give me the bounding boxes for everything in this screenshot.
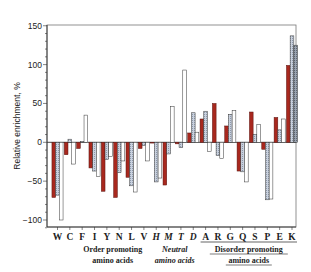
y-tick-label: −50 xyxy=(28,176,43,186)
bar-Y-series-3 xyxy=(109,142,113,156)
bar-N-series-3 xyxy=(121,142,125,161)
bar-L-series-2 xyxy=(130,142,134,186)
y-tick-label: 150 xyxy=(28,21,42,31)
bar-T-series-3 xyxy=(183,70,187,142)
bar-A-series-3 xyxy=(207,142,211,151)
group-annotations: Order promotingamino acidsNeutralamino a… xyxy=(83,245,288,265)
bar-V-series-2 xyxy=(142,142,146,145)
x-tick-label: C xyxy=(66,232,73,242)
bar-H-series-2 xyxy=(154,142,158,182)
bar-M-series-2 xyxy=(167,142,171,154)
x-tick-label: T xyxy=(178,232,185,242)
x-tick-label: N xyxy=(116,232,123,242)
bar-N-series-1 xyxy=(114,142,118,197)
bar-Q-series-2 xyxy=(241,142,245,172)
y-tick-label: 100 xyxy=(28,60,42,70)
bar-W-series-3 xyxy=(59,142,63,220)
group-label-line1: Neutral xyxy=(161,245,188,254)
group-label-line2: amino acids xyxy=(92,256,133,265)
x-tick-label: H xyxy=(152,232,161,242)
x-tick-label: I xyxy=(93,232,97,242)
bar-V-series-1 xyxy=(138,142,142,148)
x-tick-label: E xyxy=(276,232,282,242)
bar-R-series-1 xyxy=(212,103,216,142)
bar-Y-series-2 xyxy=(105,142,109,159)
bar-I-series-1 xyxy=(89,142,93,168)
x-tick-label: L xyxy=(128,232,134,242)
bar-K-series-1 xyxy=(286,65,290,142)
x-tick-label: K xyxy=(288,232,296,242)
bar-D-series-3 xyxy=(195,132,199,142)
group-label-line2: amino acids xyxy=(155,256,195,265)
bar-Y-series-1 xyxy=(101,142,105,191)
y-tick-label: 50 xyxy=(33,98,43,108)
x-tick-label: Y xyxy=(103,232,110,242)
bar-C-series-2 xyxy=(68,139,72,142)
bar-N-series-2 xyxy=(117,142,121,172)
bar-D-series-2 xyxy=(191,113,195,143)
bar-K-series-3 xyxy=(294,45,298,142)
bar-H-series-1 xyxy=(151,142,155,143)
bar-Q-series-3 xyxy=(244,142,248,182)
x-tick-label: Q xyxy=(239,232,246,242)
group-label-line1: Disorder promoting xyxy=(215,245,283,254)
bar-F-series-3 xyxy=(84,115,88,142)
x-tick-label: S xyxy=(252,232,257,242)
bar-V-series-3 xyxy=(146,142,150,161)
bar-S-series-2 xyxy=(253,135,257,143)
x-tick-label: W xyxy=(53,232,63,242)
x-tick-label: M xyxy=(163,232,173,242)
x-tick-label: D xyxy=(189,232,197,242)
bar-K-series-2 xyxy=(290,36,294,142)
bar-L-series-3 xyxy=(133,142,137,192)
bar-Q-series-1 xyxy=(237,142,241,171)
bar-S-series-3 xyxy=(257,124,261,142)
bar-G-series-2 xyxy=(228,114,232,142)
bar-I-series-2 xyxy=(93,142,97,171)
x-tick-label: F xyxy=(79,232,85,242)
bar-A-series-1 xyxy=(200,119,204,142)
bar-F-series-2 xyxy=(80,142,84,143)
bar-H-series-3 xyxy=(158,142,162,178)
bar-C-series-1 xyxy=(64,142,68,154)
x-tick-label: R xyxy=(215,232,222,242)
x-tick-label: V xyxy=(140,232,147,242)
bar-R-series-3 xyxy=(220,142,224,158)
bar-T-series-2 xyxy=(179,142,183,147)
bar-F-series-1 xyxy=(77,142,81,148)
bar-T-series-1 xyxy=(175,142,179,144)
y-tick-label: −100 xyxy=(23,215,42,225)
bar-R-series-2 xyxy=(216,142,220,155)
y-axis: 150100500−50−100 xyxy=(23,21,47,228)
bars xyxy=(52,36,298,220)
bar-W-series-2 xyxy=(56,142,60,195)
y-axis-label: Relative enrichment, % xyxy=(12,82,22,170)
bar-P-series-1 xyxy=(262,142,266,149)
bar-chart: 150100500−50−100 WCFIYNLVHMTDARGQSPEK Re… xyxy=(0,0,311,272)
bar-G-series-1 xyxy=(225,126,229,142)
bar-M-series-3 xyxy=(170,107,174,143)
x-axis: WCFIYNLVHMTDARGQSPEK xyxy=(47,227,297,242)
bar-L-series-1 xyxy=(126,142,130,177)
bar-P-series-2 xyxy=(265,142,269,200)
bar-E-series-3 xyxy=(282,119,286,142)
bar-D-series-1 xyxy=(188,133,192,142)
bar-S-series-1 xyxy=(249,112,253,142)
y-tick-label: 0 xyxy=(37,137,42,147)
bar-G-series-3 xyxy=(232,110,236,142)
bar-I-series-3 xyxy=(96,142,100,176)
x-tick-label: P xyxy=(264,232,270,242)
bar-E-series-1 xyxy=(274,117,278,142)
bar-C-series-3 xyxy=(72,142,76,164)
x-tick-label: G xyxy=(227,232,235,242)
bar-P-series-3 xyxy=(269,142,273,199)
bar-M-series-1 xyxy=(163,142,167,185)
bar-E-series-2 xyxy=(278,130,282,142)
group-label-line1: Order promoting xyxy=(83,245,142,254)
bar-A-series-2 xyxy=(204,111,208,142)
group-label-line2: amino acids xyxy=(228,256,269,265)
bar-W-series-1 xyxy=(52,142,56,197)
x-tick-label: A xyxy=(202,232,209,242)
